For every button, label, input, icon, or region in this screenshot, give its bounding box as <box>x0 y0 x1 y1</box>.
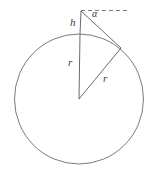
vertical-radius-line <box>79 35 80 100</box>
label-angle-alpha: α <box>92 9 97 19</box>
hypotenuse-line <box>81 11 121 48</box>
label-radius-vertical: r <box>68 57 72 68</box>
slant-radius-line <box>79 48 121 99</box>
label-radius-slant: r <box>103 73 107 84</box>
height-segment-line <box>80 11 81 35</box>
geometry-figure: h r r α <box>0 0 151 171</box>
label-height-h: h <box>70 17 76 28</box>
